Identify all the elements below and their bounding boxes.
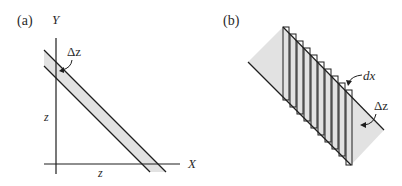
band-area [248,27,384,165]
delta-z-label: Δz [67,44,81,59]
z-intercept-label-x: z [97,166,103,180]
panel-a: (a) Y X Δz z z [17,12,197,180]
panel-b: (b) dx Δz [223,13,388,165]
band-lower-line [44,66,150,172]
band-upper-line [44,50,166,172]
delta-z-label: Δz [374,98,388,113]
figure: (a) Y X Δz z z (b) [0,0,402,186]
arrowhead-icon [346,80,352,86]
y-axis-label: Y [52,12,61,27]
x-axis-label: X [187,156,197,171]
z-intercept-label-y: z [43,110,49,124]
panel-a-label: (a) [17,13,33,29]
panel-b-label: (b) [223,13,240,29]
dx-label: dx [363,68,376,83]
